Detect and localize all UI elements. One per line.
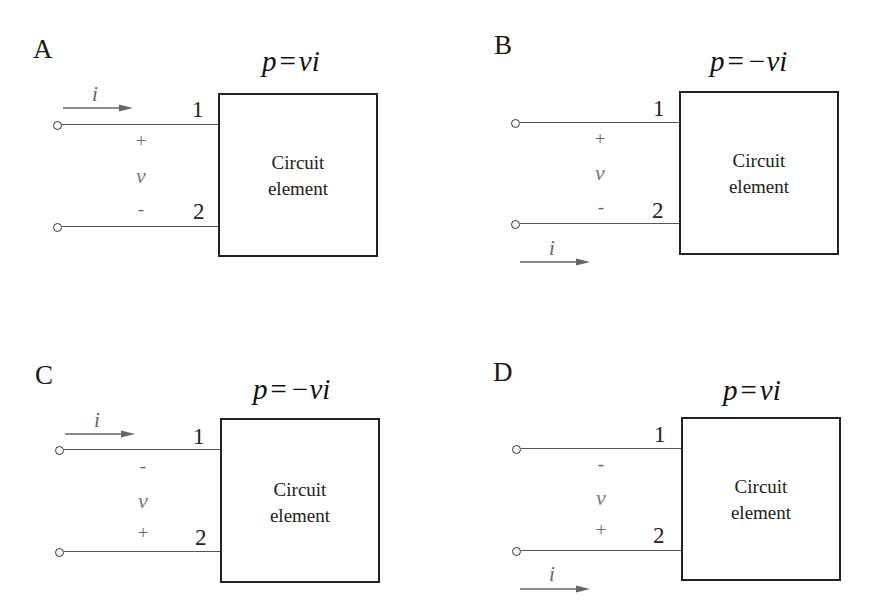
- current-label: i: [549, 238, 555, 259]
- polarity-bottom-sign: +: [593, 520, 609, 539]
- current-label: i: [92, 84, 98, 105]
- box-text-line-1: Circuit: [220, 149, 376, 176]
- terminal-2-label: 2: [653, 524, 665, 547]
- circuit-element-box: Circuit element: [681, 417, 841, 581]
- terminal-circle-bottom: [511, 220, 520, 229]
- terminal-circle-top: [512, 445, 521, 454]
- panel-d: D p=vi 1 - v + 2 i Circuit element: [440, 320, 869, 600]
- current-arrow-icon: [520, 584, 590, 594]
- voltage-label: v: [593, 487, 609, 509]
- panel-c: C p=−vi i 1 - v + 2 Circuit element: [0, 320, 434, 600]
- terminal-circle-top: [511, 119, 520, 128]
- terminal-circle-bottom: [53, 223, 62, 232]
- wire-bottom: [520, 223, 680, 224]
- box-text-line-1: Circuit: [222, 476, 378, 503]
- circuit-element-box: Circuit element: [220, 418, 380, 583]
- terminal-2-label: 2: [195, 526, 207, 549]
- polarity-top-sign: +: [592, 129, 608, 148]
- formula-lhs: p: [710, 45, 725, 77]
- terminal-1-label: 1: [654, 423, 666, 446]
- power-formula: p=vi: [262, 47, 320, 76]
- voltage-label: v: [135, 490, 151, 512]
- voltage-label: v: [592, 162, 608, 184]
- wire-bottom: [62, 226, 219, 227]
- wire-bottom: [521, 550, 681, 551]
- power-formula: p=vi: [723, 376, 781, 405]
- wire-top: [64, 449, 221, 450]
- terminal-1-label: 1: [653, 97, 665, 120]
- terminal-circle-top: [53, 121, 62, 130]
- panel-label: B: [494, 32, 512, 59]
- circuit-element-box: Circuit element: [679, 91, 839, 255]
- voltage-label: v: [133, 165, 149, 187]
- current-label: i: [549, 564, 555, 585]
- current-arrow-icon: [65, 429, 135, 439]
- panel-label: A: [33, 36, 53, 63]
- formula-lhs: p: [723, 374, 738, 406]
- terminal-circle-bottom: [55, 548, 64, 557]
- formula-equals: =: [725, 45, 747, 77]
- formula-lhs: p: [262, 45, 277, 77]
- power-formula: p=−vi: [710, 47, 787, 76]
- polarity-bottom-sign: -: [133, 199, 149, 218]
- box-text-line-2: element: [222, 502, 378, 529]
- panel-label: D: [493, 359, 513, 386]
- box-text-line-2: element: [220, 175, 376, 202]
- formula-equals: =: [738, 374, 760, 406]
- wire-top: [62, 124, 219, 125]
- polarity-top-sign: -: [593, 454, 609, 473]
- current-label: i: [94, 410, 100, 431]
- terminal-circle-bottom: [512, 547, 521, 556]
- circuit-diagram-figure: A p=vi i 1 + v - 2 Circuit element B p=−…: [0, 0, 869, 600]
- formula-rhs: vi: [299, 45, 320, 77]
- terminal-1-label: 1: [193, 425, 205, 448]
- polarity-top-sign: -: [135, 456, 151, 475]
- polarity-bottom-sign: -: [593, 197, 609, 216]
- wire-bottom: [64, 551, 221, 552]
- terminal-2-label: 2: [652, 199, 664, 222]
- formula-rhs: vi: [760, 374, 781, 406]
- formula-lhs: p: [253, 373, 268, 405]
- power-formula: p=−vi: [253, 375, 330, 404]
- formula-rhs: −vi: [747, 45, 788, 77]
- panel-b: B p=−vi 1 + v - 2 i Circuit element: [440, 0, 869, 300]
- box-text-line-1: Circuit: [681, 147, 837, 174]
- panel-a: A p=vi i 1 + v - 2 Circuit element: [0, 0, 434, 300]
- circuit-element-box: Circuit element: [218, 93, 378, 257]
- terminal-circle-top: [55, 446, 64, 455]
- polarity-bottom-sign: +: [135, 523, 151, 542]
- current-arrow-icon: [520, 257, 590, 267]
- wire-top: [520, 122, 680, 123]
- formula-equals: =: [277, 45, 299, 77]
- box-text-line-2: element: [683, 499, 839, 526]
- panel-label: C: [35, 362, 53, 389]
- terminal-2-label: 2: [193, 200, 205, 223]
- formula-equals: =: [268, 373, 290, 405]
- polarity-top-sign: +: [133, 131, 149, 150]
- current-arrow-icon: [63, 103, 133, 113]
- terminal-1-label: 1: [192, 98, 204, 121]
- box-text-line-2: element: [681, 173, 837, 200]
- wire-top: [521, 448, 681, 449]
- box-text-line-1: Circuit: [683, 473, 839, 500]
- formula-rhs: −vi: [290, 373, 331, 405]
